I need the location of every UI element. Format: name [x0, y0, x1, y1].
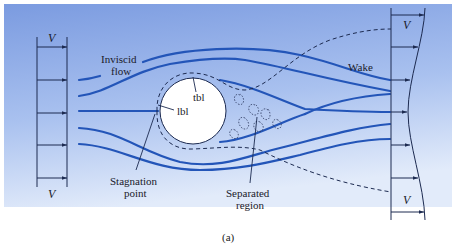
label-flow: flow — [111, 65, 131, 77]
label-region: region — [236, 199, 265, 211]
label-stagnation: Stagnation — [110, 175, 158, 187]
background-panel — [4, 4, 452, 207]
figure-caption: (a) — [222, 231, 235, 244]
label-tbl: tbl — [193, 91, 205, 103]
label-inviscid: Inviscid — [101, 53, 137, 65]
label-lbl: lbl — [177, 105, 189, 117]
label-point: point — [124, 187, 147, 199]
label-wake: Wake — [348, 61, 373, 73]
label-separated: Separated — [226, 187, 270, 199]
cylinder-body — [160, 78, 226, 144]
flow-past-cylinder-diagram: V V V V — [0, 0, 456, 247]
